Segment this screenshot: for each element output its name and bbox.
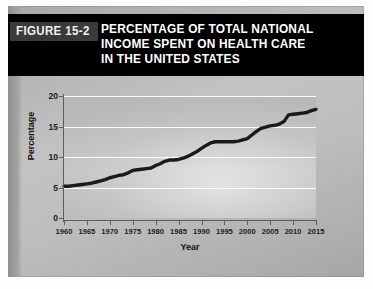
- x-tick-2005: [270, 221, 271, 225]
- chart-area: 05101520 1960196519701975198019851990199…: [8, 76, 364, 277]
- y-tick-15: [59, 127, 63, 128]
- figure-title-line-2: INCOME SPENT ON HEALTH CARE: [101, 36, 341, 51]
- x-tick-2015: [316, 221, 317, 225]
- x-tick-1960: [64, 221, 65, 225]
- y-tick-10: [59, 157, 63, 158]
- y-axis-line: [63, 94, 64, 222]
- x-tick-2000: [247, 221, 248, 225]
- series-path-health-care: [64, 109, 316, 186]
- y-tick-20: [59, 96, 63, 97]
- x-tick-1970: [110, 221, 111, 225]
- y-tick-label-15: 15: [36, 122, 58, 132]
- plot-area: [64, 96, 316, 218]
- figure-number-label: FIGURE 15-2: [16, 23, 90, 40]
- y-axis-title: Percentage: [26, 99, 36, 173]
- title-banner: FIGURE 15-2 PERCENTAGE OF TOTAL NATIONAL…: [8, 14, 364, 76]
- series-line-chart: [64, 96, 316, 218]
- x-tick-1980: [156, 221, 157, 225]
- figure-title: PERCENTAGE OF TOTAL NATIONAL INCOME SPEN…: [101, 21, 359, 67]
- y-tick-0: [59, 218, 63, 219]
- figure-title-line-3: IN THE UNITED STATES: [101, 51, 341, 66]
- x-tick-1965: [87, 221, 88, 225]
- x-tick-2010: [293, 221, 294, 225]
- x-tick-1975: [133, 221, 134, 225]
- x-axis-title: Year: [64, 242, 316, 252]
- figure-root: FIGURE 15-2 PERCENTAGE OF TOTAL NATIONAL…: [0, 0, 373, 289]
- figure-panel: FIGURE 15-2 PERCENTAGE OF TOTAL NATIONAL…: [8, 6, 364, 277]
- x-tick-1995: [224, 221, 225, 225]
- x-axis-line: [63, 220, 317, 221]
- figure-title-line-1: PERCENTAGE OF TOTAL NATIONAL: [101, 21, 341, 36]
- y-tick-5: [59, 188, 63, 189]
- x-tick-1990: [202, 221, 203, 225]
- y-tick-label-10: 10: [36, 152, 58, 162]
- y-tick-label-5: 5: [36, 183, 58, 193]
- y-tick-label-0: 0: [36, 213, 58, 223]
- x-tick-1985: [179, 221, 180, 225]
- y-tick-label-20: 20: [36, 91, 58, 101]
- x-tick-label-2015: 2015: [301, 227, 331, 236]
